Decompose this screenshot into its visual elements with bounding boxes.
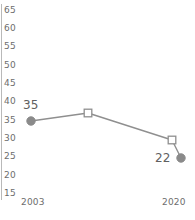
- data-point-marker-second[interactable]: [84, 109, 92, 117]
- data-point-marker-third[interactable]: [168, 136, 176, 144]
- x-axis-tick-2003: 2003: [21, 198, 45, 207]
- line-chart: 65 60 55 50 45 40 35 30 25 20 15 35 22 2…: [0, 0, 195, 220]
- data-point-marker-last[interactable]: [177, 154, 185, 162]
- x-axis-tick-2020: 2020: [162, 198, 186, 207]
- data-label-first-value: 35: [23, 99, 38, 111]
- data-label-last-value: 22: [155, 152, 170, 164]
- data-point-marker-first[interactable]: [27, 117, 35, 125]
